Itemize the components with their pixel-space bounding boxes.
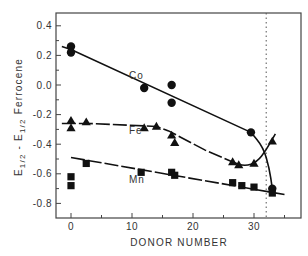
data-point-circle — [247, 128, 255, 136]
y-title-e: E — [13, 168, 24, 176]
chart-canvas: 0.40.20.0-0.2-0.4-0.6-0.8 0102030 CoFeMn… — [0, 0, 308, 256]
y-axis-title: E1/2 - E1/2 Ferrocene — [13, 58, 27, 176]
data-point-square — [83, 160, 90, 167]
data-point-square — [269, 189, 276, 196]
data-point-square — [229, 179, 236, 186]
data-point-triangle — [268, 137, 277, 145]
plot-frame — [56, 13, 301, 218]
data-point-square — [67, 173, 74, 180]
plot-border — [56, 13, 301, 218]
data-point-triangle — [66, 116, 75, 124]
x-axis: 0102030 — [68, 213, 285, 232]
data-point-square — [238, 182, 245, 189]
svg-text:E1/2 - E1/2 Ferrocene: E1/2 - E1/2 Ferrocene — [13, 58, 27, 176]
y-tick-label: -0.4 — [33, 139, 52, 150]
x-tick-label: 10 — [126, 221, 138, 232]
y-tick-label: -0.2 — [33, 109, 52, 120]
y-title-tail: Ferrocene — [13, 58, 24, 118]
y-title-sub2: 1/2 — [18, 118, 27, 133]
y-tick-label: -0.8 — [33, 198, 52, 209]
series-label-mn: Mn — [129, 174, 145, 185]
x-tick-label: 20 — [187, 221, 199, 232]
y-tick-label: 0.2 — [37, 50, 52, 61]
data-point-triangle — [66, 123, 75, 131]
data-point-triangle — [82, 117, 91, 125]
data-point-circle — [140, 84, 148, 92]
y-tick-label: 0.0 — [37, 80, 52, 91]
fit-line-co — [62, 47, 251, 133]
data-point-circle — [167, 99, 175, 107]
x-axis-title: DONOR NUMBER — [130, 237, 228, 248]
data-point-square — [171, 172, 178, 179]
data-point-square — [67, 182, 74, 189]
x-tick-label: 30 — [248, 221, 260, 232]
y-axis: 0.40.20.0-0.2-0.4-0.6-0.8 — [33, 20, 61, 209]
x-tick-label: 0 — [68, 221, 74, 232]
electrochemistry-chart: 0.40.20.0-0.2-0.4-0.6-0.8 0102030 CoFeMn… — [0, 0, 308, 256]
y-tick-label: -0.6 — [33, 168, 52, 179]
data-point-square — [250, 184, 257, 191]
y-title-dash: - E — [13, 133, 24, 153]
series-label-fe: Fe — [129, 125, 143, 136]
data-point-triangle — [170, 138, 179, 146]
y-tick-label: 0.4 — [37, 20, 52, 31]
data-points — [66, 42, 277, 196]
series-label-co: Co — [129, 70, 144, 81]
data-point-circle — [167, 81, 175, 89]
y-title-sub1: 1/2 — [18, 153, 27, 168]
data-point-circle — [67, 48, 75, 56]
